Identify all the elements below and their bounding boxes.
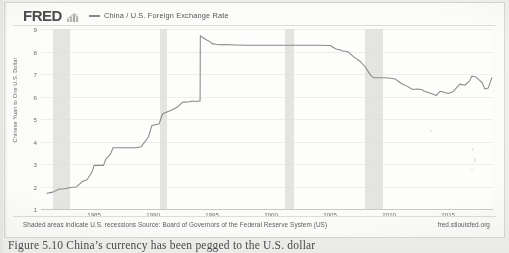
- y-tick-1: 1: [23, 206, 37, 213]
- y-tick-4: 4: [23, 138, 37, 145]
- scan-speckle: [472, 148, 474, 151]
- plot-area: [41, 29, 493, 210]
- scan-speckle: [471, 169, 473, 171]
- y-axis-title: Chinese Yuan to One U.S. Dollar: [12, 34, 18, 166]
- chart-header: FRED China / U.S. Foreign Exchange Rate: [5, 3, 504, 27]
- y-tick-5: 5: [23, 116, 37, 123]
- y-tick-8: 8: [23, 48, 37, 55]
- footer-divider: [13, 216, 496, 217]
- y-tick-9: 9: [23, 26, 37, 33]
- header-divider: [13, 25, 496, 26]
- chart-legend: China / U.S. Foreign Exchange Rate: [89, 11, 229, 20]
- figure-caption: Figure 5.10 China’s currency has been pe…: [8, 238, 503, 253]
- bar-chart-icon: [67, 12, 80, 22]
- y-tick-2: 2: [23, 183, 37, 190]
- y-axis-tick-labels: 987654321: [23, 27, 37, 209]
- legend-color-swatch: [89, 15, 100, 17]
- scanned-page: FRED China / U.S. Foreign Exchange Rate …: [0, 0, 509, 253]
- scan-speckle: [474, 158, 476, 162]
- series-line-chart: [41, 29, 493, 209]
- scan-speckle: [430, 130, 432, 132]
- fred-logo: FRED: [23, 8, 62, 23]
- figure-caption-text: Figure 5.10 China’s currency has been pe…: [8, 239, 315, 251]
- y-tick-6: 6: [23, 93, 37, 100]
- plot-area-wrapper: Chinese Yuan to One U.S. Dollar 98765432…: [5, 27, 504, 213]
- legend-series-label: China / U.S. Foreign Exchange Rate: [104, 11, 229, 20]
- y-tick-3: 3: [23, 161, 37, 168]
- fred-source-link[interactable]: fred.stlouisfed.org: [438, 221, 490, 228]
- y-tick-7: 7: [23, 71, 37, 78]
- fred-chart-figure: FRED China / U.S. Foreign Exchange Rate …: [5, 3, 504, 237]
- chart-footer: Shaded areas indicate U.S. recessions So…: [5, 216, 504, 236]
- footer-note: Shaded areas indicate U.S. recessions So…: [23, 221, 327, 228]
- exchange-rate-line: [47, 36, 492, 194]
